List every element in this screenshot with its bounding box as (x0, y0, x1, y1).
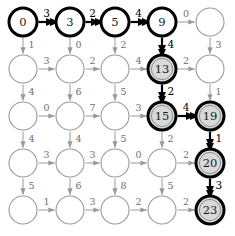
edge-weight-h-r0-c1: 2 (89, 7, 96, 19)
edge-weight-v-c4-r0: 3 (216, 39, 222, 50)
edge-weight-h-r1-c2: 4 (135, 55, 141, 66)
node-15[interactable]: 15 (148, 102, 176, 130)
edge-weight-v-c4-r3: 3 (216, 179, 223, 191)
edge-weight-h-r3-c3: 2 (183, 149, 189, 160)
edge-weight-h-r2-c3: 4 (183, 101, 190, 113)
node-n04[interactable] (196, 8, 224, 36)
node-0[interactable]: 0 (9, 8, 37, 36)
node-n10[interactable] (9, 55, 37, 83)
node-label-20: 20 (203, 156, 218, 170)
edge-weight-v-c0-r1: 4 (29, 86, 35, 97)
node-label-13: 13 (155, 62, 170, 76)
node-label-23: 23 (203, 203, 218, 217)
edge-weight-v-c2-r3: 8 (121, 180, 127, 191)
node-19[interactable]: 19 (196, 102, 224, 130)
node-label-19: 19 (203, 109, 218, 123)
edge-weight-h-r3-c2: 0 (135, 149, 141, 160)
edge-weight-v-c4-r2: 1 (216, 132, 223, 144)
edge-weight-v-c1-r0: 0 (76, 39, 82, 50)
edge-weight-v-c1-r1: 6 (76, 86, 82, 97)
node-n43[interactable] (148, 196, 176, 224)
node-n12[interactable] (101, 55, 129, 83)
node-23[interactable]: 23 (196, 196, 224, 224)
graph-canvas: 03591315192023 3240324207343302132210243… (0, 0, 235, 236)
edge-weight-h-r4-c1: 3 (89, 196, 95, 207)
edge-weight-h-r0-c2: 4 (135, 7, 142, 19)
node-n31[interactable] (56, 149, 84, 177)
node-n32[interactable] (101, 149, 129, 177)
edge-weight-h-r2-c2: 3 (135, 102, 141, 113)
node-n30[interactable] (9, 149, 37, 177)
edge-weight-v-c0-r2: 4 (29, 133, 35, 144)
node-9[interactable]: 9 (148, 8, 176, 36)
edge-weight-v-c4-r1: 1 (216, 86, 222, 97)
node-label-9: 9 (158, 15, 165, 29)
edge-weight-v-c2-r1: 5 (121, 86, 127, 97)
node-label-3: 3 (66, 15, 73, 29)
edge-weight-v-c0-r0: 1 (29, 39, 35, 50)
edge-weight-h-r1-c3: 2 (183, 55, 189, 66)
edge-weight-v-c3-r0: 4 (168, 38, 175, 50)
edge-weight-h-r3-c1: 3 (89, 149, 95, 160)
edge-weight-h-r0-c3: 0 (183, 8, 189, 19)
edge-weight-h-r4-c3: 2 (183, 196, 189, 207)
node-20[interactable]: 20 (196, 149, 224, 177)
edge-weight-h-r2-c0: 0 (43, 102, 49, 113)
edge-weight-h-r2-c1: 7 (89, 102, 95, 113)
node-n21[interactable] (56, 102, 84, 130)
edge-weight-v-c1-r3: 6 (76, 180, 82, 191)
edge-weight-v-c3-r1: 2 (168, 85, 175, 97)
edge-weight-v-c0-r3: 5 (29, 180, 35, 191)
edge-weight-h-r1-c1: 2 (89, 55, 95, 66)
edge-weight-v-c3-r3: 5 (168, 180, 174, 191)
node-5[interactable]: 5 (101, 8, 129, 36)
node-label-0: 0 (19, 15, 26, 29)
node-n33[interactable] (148, 149, 176, 177)
node-n22[interactable] (101, 102, 129, 130)
edge-weight-h-r0-c0: 3 (43, 7, 50, 19)
grid-graph-svg: 03591315192023 3240324207343302132210243… (0, 0, 235, 236)
edge-weight-h-r4-c0: 1 (43, 196, 49, 207)
edge-weight-h-r4-c2: 2 (135, 196, 141, 207)
node-n14[interactable] (196, 55, 224, 83)
edge-weight-v-c2-r2: 5 (121, 133, 127, 144)
edge-weight-h-r1-c0: 3 (43, 55, 49, 66)
node-n20[interactable] (9, 102, 37, 130)
edge-weight-v-c1-r2: 4 (76, 133, 82, 144)
edge-weight-v-c2-r0: 2 (121, 39, 127, 50)
node-n42[interactable] (101, 196, 129, 224)
node-n11[interactable] (56, 55, 84, 83)
node-label-5: 5 (111, 15, 118, 29)
edge-weight-v-c3-r2: 2 (168, 133, 174, 144)
node-13[interactable]: 13 (148, 55, 176, 83)
edge-weight-h-r3-c0: 3 (43, 149, 49, 160)
node-n40[interactable] (9, 196, 37, 224)
node-3[interactable]: 3 (56, 8, 84, 36)
node-n41[interactable] (56, 196, 84, 224)
node-label-15: 15 (155, 109, 170, 123)
